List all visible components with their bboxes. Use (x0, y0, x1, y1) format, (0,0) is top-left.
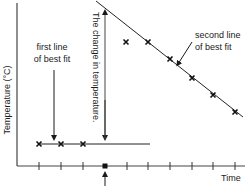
first-line-label-1: first line (36, 42, 67, 52)
temperature-time-graph: Temperature (°C) Time first line of best… (0, 0, 250, 195)
change-in-temperature-label: The change in temperature. (91, 12, 101, 123)
x-axis-label: Time (221, 173, 241, 183)
x-axis-star-marker (103, 164, 108, 169)
y-axis-label: Temperature (°C) (2, 65, 12, 134)
outlier-point (124, 40, 129, 45)
second-line-label-2: of best fit (195, 42, 232, 52)
second-line-label-1: second line (195, 30, 241, 40)
first-line-label-2: of best fit (34, 54, 71, 64)
second-line-pointer (178, 42, 192, 64)
